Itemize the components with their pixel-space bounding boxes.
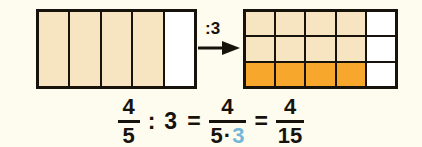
right-cell-r2c2 bbox=[276, 37, 304, 60]
fraction2-denominator-left: 5 bbox=[211, 123, 223, 147]
fraction-four-over-five-times-three: 4 5·3 bbox=[206, 95, 250, 147]
fraction2-denominator: 5·3 bbox=[209, 124, 247, 147]
equals-sign-1: = bbox=[182, 108, 205, 135]
right-cell-r2c1 bbox=[246, 37, 274, 60]
right-cell-r3c1 bbox=[246, 63, 274, 86]
equals-sign-2: = bbox=[249, 108, 272, 135]
left-cell-5 bbox=[165, 12, 194, 86]
right-cell-r2c4 bbox=[337, 37, 365, 60]
right-cell-r1c3 bbox=[306, 12, 334, 35]
right-cell-r3c2 bbox=[276, 63, 304, 86]
division-operator: :3 bbox=[198, 20, 242, 58]
fraction2-numerator: 4 bbox=[219, 95, 235, 119]
right-cell-r2c3 bbox=[306, 37, 334, 60]
left-bar-model bbox=[36, 9, 197, 89]
divisor: 3 bbox=[159, 108, 182, 135]
right-cell-r1c1 bbox=[246, 12, 274, 35]
right-cell-r2c5 bbox=[367, 37, 395, 60]
fraction3-numerator: 4 bbox=[282, 95, 298, 119]
fraction-four-fifteenths: 4 15 bbox=[273, 95, 307, 147]
left-cell-4 bbox=[133, 12, 162, 86]
fraction2-denominator-right: 3 bbox=[232, 123, 244, 147]
fraction-four-fifths: 4 5 bbox=[115, 95, 143, 147]
multiplication-dot: · bbox=[223, 123, 232, 147]
right-arrow-icon bbox=[198, 40, 240, 56]
right-cell-r1c4 bbox=[337, 12, 365, 35]
equation: 4 5 : 3 = 4 5·3 = 4 15 bbox=[0, 96, 422, 146]
fraction3-denominator: 15 bbox=[276, 124, 304, 147]
right-cell-r1c2 bbox=[276, 12, 304, 35]
fraction1-denominator: 5 bbox=[121, 124, 137, 147]
left-cell-2 bbox=[70, 12, 99, 86]
divide-symbol: : bbox=[143, 108, 160, 135]
diagram-canvas: :3 4 5 : 3 = 4 bbox=[0, 0, 422, 146]
operator-label: :3 bbox=[205, 20, 220, 38]
right-cell-r3c3 bbox=[306, 63, 334, 86]
right-grid-model bbox=[243, 9, 398, 89]
left-cell-3 bbox=[102, 12, 131, 86]
right-cell-r3c4 bbox=[337, 63, 365, 86]
left-cell-1 bbox=[39, 12, 68, 86]
right-cell-r3c5 bbox=[367, 63, 395, 86]
fraction1-numerator: 4 bbox=[121, 95, 137, 119]
right-cell-r1c5 bbox=[367, 12, 395, 35]
